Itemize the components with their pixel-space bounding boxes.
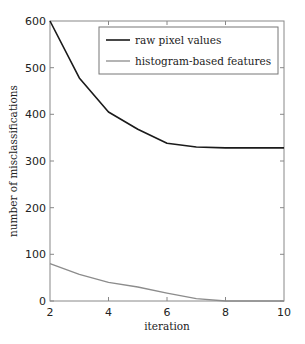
x-tick-label: 8	[222, 306, 229, 319]
y-ticks	[50, 68, 284, 301]
x-tick-label: 2	[47, 306, 54, 319]
y-axis-label: number of misclassifications	[7, 85, 19, 237]
y-tick-label: 500	[25, 62, 46, 75]
y-tick-label: 300	[25, 155, 46, 168]
x-axis-label: iteration	[144, 320, 190, 332]
series-line-histogram-based-features	[50, 264, 284, 301]
y-tick-label: 0	[39, 295, 46, 308]
x-tick-label: 4	[105, 306, 112, 319]
y-tick-label: 200	[25, 202, 46, 215]
y-tick-label: 600	[25, 15, 46, 28]
x-tick-labels: 2 4 6 8 10	[47, 306, 292, 319]
chart: 0 100 200 300 400 500 600 2 4 6 8 10 ite…	[0, 0, 305, 344]
y-tick-label: 400	[25, 108, 46, 121]
legend-label-raw: raw pixel values	[135, 34, 221, 46]
y-tick-labels: 0 100 200 300 400 500 600	[25, 15, 46, 308]
x-tick-label: 6	[164, 306, 171, 319]
legend: raw pixel values histogram-based feature…	[99, 27, 278, 74]
y-tick-label: 100	[25, 248, 46, 261]
legend-label-histogram: histogram-based features	[135, 55, 271, 67]
x-tick-label: 10	[277, 306, 291, 319]
